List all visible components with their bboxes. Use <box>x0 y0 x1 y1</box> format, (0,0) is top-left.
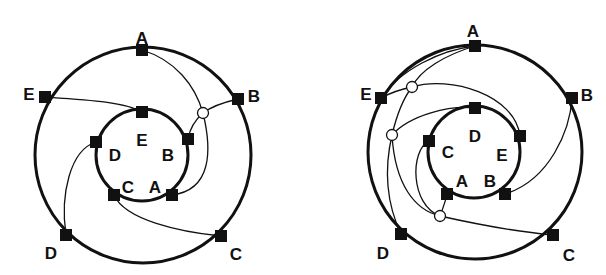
inner-label-e: E <box>496 146 507 165</box>
two-ring-diagram: ABCDEEBACD ABCDEDEBAC <box>0 0 606 275</box>
junction-node <box>387 130 398 141</box>
right-ring-diagram: ABCDEDEBAC <box>360 22 593 265</box>
outer-label-e: E <box>23 85 34 104</box>
outer-label-e: E <box>360 85 371 104</box>
outer-ring <box>368 45 582 259</box>
outer-node-c <box>215 230 227 242</box>
inner-node-e <box>136 106 148 118</box>
inner-label-b: B <box>484 172 496 191</box>
outer-node-e <box>39 91 51 103</box>
connection-curve <box>381 46 475 98</box>
connection-curve <box>114 195 221 236</box>
inner-label-e: E <box>136 131 147 150</box>
inner-node-e <box>514 130 526 142</box>
left-ring-diagram: ABCDEEBACD <box>23 29 260 264</box>
connection-curve <box>64 142 96 235</box>
connection-curve <box>412 84 520 136</box>
outer-label-a: A <box>136 29 148 48</box>
inner-node-d <box>90 136 102 148</box>
inner-label-c: C <box>442 143 454 162</box>
outer-node-e <box>375 92 387 104</box>
outer-label-d: D <box>377 244 389 263</box>
outer-node-d <box>60 229 72 241</box>
connection-curve <box>440 216 553 235</box>
inner-label-b: B <box>162 146 174 165</box>
outer-label-b: B <box>248 87 260 106</box>
inner-label-d: D <box>109 146 121 165</box>
inner-node-a <box>166 189 178 201</box>
inner-node-b <box>182 133 194 145</box>
inner-node-c <box>108 189 120 201</box>
outer-label-c: C <box>230 245 242 264</box>
junction-node <box>407 82 418 93</box>
outer-node-b <box>232 93 244 105</box>
outer-node-d <box>395 228 407 240</box>
inner-node-d <box>469 102 481 114</box>
inner-label-d: D <box>469 127 481 146</box>
connection-curve <box>45 97 142 112</box>
outer-label-a: A <box>467 22 479 41</box>
outer-node-b <box>566 92 578 104</box>
outer-label-c: C <box>563 246 575 265</box>
inner-label-a: A <box>456 172 468 191</box>
inner-node-a <box>441 188 453 200</box>
outer-node-c <box>547 229 559 241</box>
inner-node-c <box>423 135 435 147</box>
connection-curve <box>388 135 401 234</box>
inner-node-b <box>499 188 511 200</box>
junction-node <box>435 211 446 222</box>
junction-node <box>198 108 209 119</box>
connection-curve <box>505 98 572 194</box>
outer-label-b: B <box>581 86 593 105</box>
inner-label-a: A <box>149 178 161 197</box>
outer-label-d: D <box>45 244 57 263</box>
inner-label-c: C <box>122 178 134 197</box>
outer-node-a <box>469 40 481 52</box>
connection-curve <box>412 46 475 87</box>
connection-curve <box>392 87 412 135</box>
